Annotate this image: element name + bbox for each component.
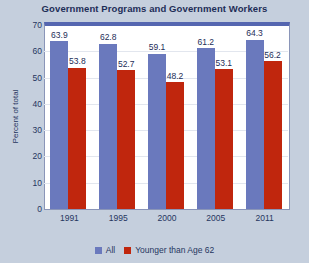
bar-group: 62.852.7 — [93, 25, 142, 209]
x-tick-label: 2011 — [240, 213, 290, 223]
bar-group: 64.356.2 — [239, 25, 288, 209]
bar-group: 61.253.1 — [190, 25, 239, 209]
bar — [99, 44, 117, 209]
chart-title: Government Programs and Government Worke… — [0, 3, 309, 14]
bar-value-label: 53.8 — [63, 57, 91, 66]
chart-legend: AllYounger than Age 62 — [0, 245, 309, 255]
bar-value-label: 59.1 — [143, 43, 171, 52]
bar-value-label: 63.9 — [45, 31, 73, 40]
bar-group: 63.953.8 — [44, 25, 93, 209]
bar — [264, 61, 282, 209]
bar — [166, 82, 184, 209]
legend-label: Younger than Age 62 — [135, 245, 214, 255]
bar — [246, 40, 264, 209]
y-tick-label: 10 — [18, 178, 42, 187]
x-tick-label: 2005 — [191, 213, 241, 223]
y-tick-label: 50 — [18, 73, 42, 82]
bar — [215, 69, 233, 209]
bars-layer: 63.953.862.852.759.148.261.253.164.356.2 — [44, 25, 288, 209]
bar — [197, 48, 215, 209]
y-tick-label: 30 — [18, 126, 42, 135]
legend-swatch — [95, 247, 102, 254]
bar-value-label: 62.8 — [94, 33, 122, 42]
legend-label: All — [106, 245, 115, 255]
x-tick-label: 1991 — [44, 213, 94, 223]
bar — [68, 68, 86, 209]
bar-value-label: 52.7 — [112, 60, 140, 69]
bar-value-label: 56.2 — [259, 51, 287, 60]
legend-entry[interactable]: Younger than Age 62 — [124, 245, 214, 255]
y-tick-label: 0 — [18, 205, 42, 214]
bar — [50, 41, 68, 209]
bar-group: 59.148.2 — [142, 25, 191, 209]
bar — [117, 70, 135, 209]
bar-value-label: 48.2 — [161, 72, 189, 81]
y-tick-label: 60 — [18, 47, 42, 56]
legend-swatch — [124, 247, 131, 254]
x-axis-ticks: 19911995200020052011 — [44, 213, 290, 227]
plot-area: 63.953.862.852.759.148.261.253.164.356.2 — [44, 25, 288, 209]
y-tick-label: 40 — [18, 100, 42, 109]
bar-value-label: 61.2 — [192, 38, 220, 47]
bar-value-label: 53.1 — [210, 59, 238, 68]
x-tick-label: 1995 — [93, 213, 143, 223]
bar-value-label: 64.3 — [241, 29, 269, 38]
legend-entry[interactable]: All — [95, 245, 115, 255]
x-tick-label: 2000 — [142, 213, 192, 223]
y-axis-ticks: 010203040506070 — [18, 22, 42, 210]
y-tick-label: 70 — [18, 21, 42, 30]
bar-chart: Government Programs and Government Worke… — [0, 0, 309, 263]
y-tick-label: 20 — [18, 152, 42, 161]
